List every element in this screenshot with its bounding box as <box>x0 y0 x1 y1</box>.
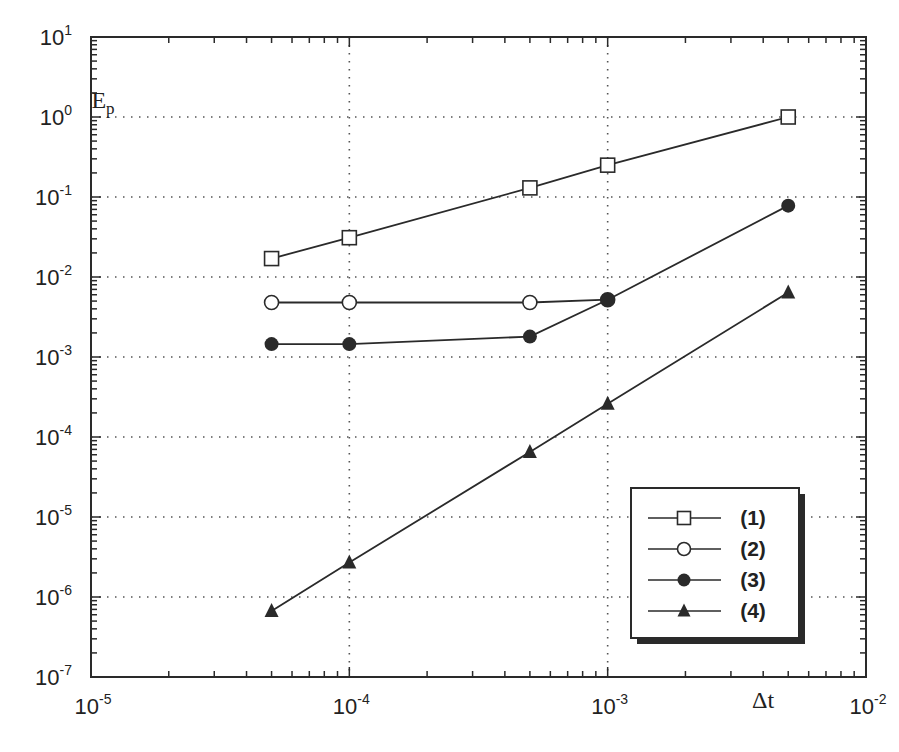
filled-circle-marker-icon <box>678 574 691 587</box>
legend-box <box>631 488 799 638</box>
legend-label: (4) <box>740 599 766 622</box>
open-circle-marker-icon <box>678 543 691 556</box>
open-circle-marker-icon <box>523 296 537 310</box>
y-tick-exponent: -1 <box>60 182 73 198</box>
x-tick-label: 10-2 <box>850 691 887 719</box>
y-axis-label: Ep <box>91 87 114 118</box>
x-tick-exponent: -5 <box>99 691 112 707</box>
y-tick-label: 10-2 <box>35 262 72 290</box>
open-square-marker-icon <box>523 181 537 195</box>
series-line <box>272 206 789 344</box>
series-1 <box>265 110 796 266</box>
y-tick-label: 10-4 <box>35 422 72 450</box>
x-tick-exponent: -3 <box>616 691 629 707</box>
filled-triangle-marker-icon <box>523 444 537 458</box>
filled-circle-marker-icon <box>601 293 615 307</box>
y-tick-exponent: -6 <box>60 582 73 598</box>
y-axis-label-subscript: p <box>106 99 115 118</box>
log-log-chart: 10110010-110-210-310-410-510-610-7 10-51… <box>0 0 899 752</box>
filled-circle-marker-icon <box>523 330 537 344</box>
filled-triangle-marker-icon <box>265 603 279 617</box>
open-square-marker-icon <box>781 110 795 124</box>
open-square-marker-icon <box>601 158 615 172</box>
open-square-marker-icon <box>342 231 356 245</box>
y-tick-exponent: -2 <box>60 262 73 278</box>
y-tick-exponent: -4 <box>60 422 73 438</box>
y-tick-exponent: 0 <box>64 102 72 118</box>
filled-triangle-marker-icon <box>781 285 795 299</box>
y-tick-label: 10-6 <box>35 582 72 610</box>
y-tick-label: 10-5 <box>35 502 72 530</box>
series-3 <box>265 199 796 351</box>
filled-circle-marker-icon <box>265 337 279 351</box>
open-circle-marker-icon <box>342 296 356 310</box>
x-tick-exponent: -4 <box>357 691 370 707</box>
y-tick-exponent: -7 <box>60 662 73 678</box>
legend-label: (2) <box>740 537 766 560</box>
open-circle-marker-icon <box>265 296 279 310</box>
y-tick-label: 10-7 <box>35 662 72 690</box>
legend-label: (3) <box>740 568 766 591</box>
open-square-marker-icon <box>265 252 279 266</box>
series-line <box>272 300 608 303</box>
y-tick-label: 101 <box>40 22 72 50</box>
x-tick-label: 10-3 <box>591 691 628 719</box>
legend-label: (1) <box>740 506 766 529</box>
y-tick-exponent: -3 <box>60 342 73 358</box>
x-tick-label: 10-5 <box>75 691 112 719</box>
x-tick-label: 10-4 <box>333 691 370 719</box>
y-tick-exponent: -5 <box>60 502 73 518</box>
x-axis-label: Δt <box>752 687 774 713</box>
y-tick-label: 10-3 <box>35 342 72 370</box>
open-square-marker-icon <box>678 512 691 525</box>
filled-triangle-marker-icon <box>342 554 356 568</box>
y-tick-label: 100 <box>40 102 72 130</box>
y-tick-exponent: 1 <box>64 22 72 38</box>
filled-circle-marker-icon <box>342 337 356 351</box>
series-2 <box>265 293 615 310</box>
x-tick-exponent: -2 <box>874 691 887 707</box>
filled-triangle-marker-icon <box>601 396 615 410</box>
y-tick-label: 10-1 <box>35 182 72 210</box>
legend: (1)(2)(3)(4) <box>631 488 805 644</box>
filled-circle-marker-icon <box>781 199 795 213</box>
y-axis-tick-labels: 10110010-110-210-310-410-510-610-7 <box>35 22 72 690</box>
